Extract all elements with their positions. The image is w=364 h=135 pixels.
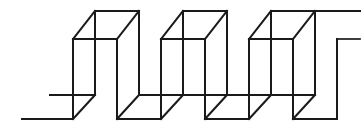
figure-canvas: Impossible square-wave figure [0, 0, 364, 135]
box-unit-1 [73, 11, 183, 119]
unit3-bottom-right-diagonal [293, 95, 315, 119]
box-unit-3 [249, 11, 337, 119]
box-unit-2 [161, 11, 271, 119]
unit1-left-diagonal [73, 11, 95, 39]
unit1-bottom-right-diagonal [117, 95, 139, 119]
unit3-right-diagonal [293, 11, 315, 39]
unit2-left-diagonal [161, 11, 183, 39]
unit1-right-diagonal [117, 11, 139, 39]
unit1-bottom-left-diagonal [73, 95, 95, 119]
unit1-trough-bottom-diagonal [161, 95, 183, 119]
unit2-right-diagonal [205, 11, 227, 39]
unit3-left-diagonal [249, 11, 271, 39]
right-lead-out-group [315, 11, 360, 39]
unit2-trough-bottom-diagonal [249, 95, 271, 119]
unit2-bottom-right-diagonal [205, 95, 227, 119]
impossible-square-wave-drawing [0, 0, 364, 135]
